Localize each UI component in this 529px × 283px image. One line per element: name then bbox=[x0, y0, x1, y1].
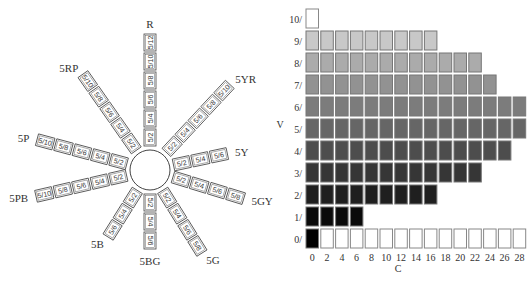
color-chip bbox=[380, 163, 393, 182]
hue-spoke-5g: 5/25/45/65/85G bbox=[158, 187, 220, 266]
wheel-center-circle bbox=[130, 150, 170, 190]
color-chip bbox=[395, 141, 408, 160]
color-chip bbox=[424, 141, 437, 160]
hue-chip: 5/10 bbox=[78, 71, 98, 92]
value-row-8: 8/ bbox=[294, 53, 481, 72]
color-chip bbox=[365, 141, 378, 160]
color-chip bbox=[321, 31, 334, 50]
hue-label-r: R bbox=[146, 18, 154, 30]
color-chip bbox=[321, 119, 334, 138]
value-row-1: 1/ bbox=[294, 207, 363, 226]
chip-label: 5/2 bbox=[147, 133, 154, 143]
color-chip bbox=[336, 141, 349, 160]
value-row-4: 4/ bbox=[294, 141, 511, 160]
chroma-tick-label: 24 bbox=[485, 252, 495, 263]
color-chip bbox=[336, 97, 349, 116]
color-chip bbox=[395, 31, 408, 50]
value-tick-label: 0/ bbox=[294, 234, 302, 245]
hue-label-5y: 5Y bbox=[235, 146, 249, 158]
chroma-tick-label: 16 bbox=[426, 252, 436, 263]
color-chip bbox=[380, 75, 393, 94]
chip-label: 5/8 bbox=[147, 76, 154, 86]
color-chip bbox=[380, 53, 393, 72]
hue-chip: 5/2 bbox=[123, 187, 142, 208]
color-chip bbox=[484, 119, 497, 138]
hue-chip: 5/8 bbox=[226, 188, 246, 204]
color-chip bbox=[321, 207, 334, 226]
value-row-6: 6/ bbox=[294, 97, 525, 116]
hue-chip: 5/6 bbox=[178, 219, 197, 240]
color-chip bbox=[469, 141, 482, 160]
hue-label-5b: 5B bbox=[91, 238, 104, 250]
color-chip bbox=[336, 185, 349, 204]
hue-chip: 5/6 bbox=[208, 182, 228, 198]
color-chip bbox=[410, 163, 423, 182]
value-tick-label: 9/ bbox=[294, 36, 302, 47]
hue-spoke-r: 5/25/45/65/85/105/12R bbox=[144, 18, 156, 146]
color-chip bbox=[350, 53, 363, 72]
color-chip bbox=[306, 119, 319, 138]
color-chip bbox=[350, 163, 363, 182]
chip-label: 5/2 bbox=[147, 198, 154, 208]
hue-chip: 5/6 bbox=[72, 178, 91, 194]
color-chip bbox=[469, 163, 482, 182]
value-row-10: 10/ bbox=[289, 9, 318, 28]
color-chip bbox=[321, 141, 334, 160]
hue-chip: 5/4 bbox=[90, 174, 109, 190]
hue-label-5g: 5G bbox=[206, 254, 220, 266]
y-axis-title: V bbox=[276, 119, 284, 130]
chroma-tick-label: 6 bbox=[354, 252, 359, 263]
hue-chip: 5/2 bbox=[109, 170, 128, 186]
hue-chip: 5/4 bbox=[189, 177, 209, 193]
color-chip bbox=[498, 97, 511, 116]
chip-label: 5/12 bbox=[147, 36, 154, 50]
color-chip bbox=[306, 185, 319, 204]
hue-chip: 5/6 bbox=[100, 102, 120, 123]
hue-chip: 5/2 bbox=[172, 156, 191, 171]
hue-chip: 5/6 bbox=[144, 91, 156, 108]
color-chip bbox=[454, 163, 467, 182]
color-chip bbox=[410, 75, 423, 94]
chroma-tick-label: 2 bbox=[325, 252, 330, 263]
hue-chip: 5/10 bbox=[35, 134, 55, 150]
color-chip bbox=[365, 75, 378, 94]
color-chip bbox=[350, 229, 363, 248]
color-chip bbox=[454, 119, 467, 138]
color-chip bbox=[469, 229, 482, 248]
color-chip bbox=[454, 141, 467, 160]
chroma-tick-label: 22 bbox=[470, 252, 480, 263]
color-chip bbox=[484, 141, 497, 160]
color-chip bbox=[306, 229, 319, 248]
value-row-7: 7/ bbox=[294, 75, 496, 94]
color-chip bbox=[424, 53, 437, 72]
color-chip bbox=[424, 185, 437, 204]
color-chip bbox=[380, 31, 393, 50]
hue-chip: 5/6 bbox=[103, 219, 122, 240]
chroma-tick-label: 10 bbox=[381, 252, 391, 263]
hue-label-5gy: 5GY bbox=[251, 195, 272, 207]
value-tick-label: 7/ bbox=[294, 80, 302, 91]
color-chip bbox=[439, 163, 452, 182]
chroma-tick-label: 0 bbox=[310, 252, 315, 263]
hue-chip: 5/6 bbox=[72, 144, 92, 160]
color-chip bbox=[365, 163, 378, 182]
hue-chip: 5/4 bbox=[113, 203, 132, 224]
color-chip bbox=[513, 119, 526, 138]
hue-chip: 5/8 bbox=[188, 236, 207, 257]
value-row-9: 9/ bbox=[294, 31, 437, 50]
value-tick-label: 4/ bbox=[294, 146, 302, 157]
color-chip bbox=[380, 141, 393, 160]
hue-spoke-5p: 5/25/45/65/85/105P bbox=[18, 132, 129, 170]
color-chip bbox=[395, 229, 408, 248]
chip-label: 5/4 bbox=[147, 114, 154, 124]
color-chip bbox=[439, 75, 452, 94]
color-chip bbox=[395, 53, 408, 72]
color-chip bbox=[469, 53, 482, 72]
color-chip bbox=[365, 229, 378, 248]
hue-chip: 5/10 bbox=[144, 53, 156, 70]
color-chip bbox=[439, 141, 452, 160]
color-chip bbox=[469, 75, 482, 94]
color-chip bbox=[410, 53, 423, 72]
hue-label-5pb: 5PB bbox=[9, 192, 28, 204]
color-chip bbox=[365, 53, 378, 72]
